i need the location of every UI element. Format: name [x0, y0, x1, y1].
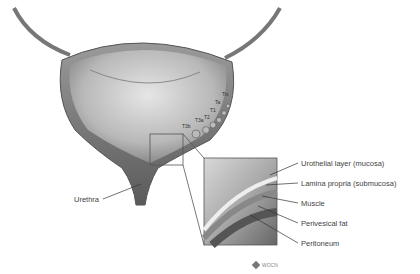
- bladder-illustration: [0, 0, 420, 274]
- label-peritoneum: Peritoneum: [301, 240, 339, 248]
- logo-text: WOCN: [262, 262, 278, 268]
- stage-t3b: T3b: [182, 124, 191, 129]
- label-lamina: Lamina propria (submucosa): [301, 180, 396, 188]
- logo-diamond-icon: [252, 261, 260, 269]
- stage-ta: Ta: [215, 100, 220, 105]
- logo: WOCN: [253, 262, 278, 268]
- label-urethra: Urethra: [74, 196, 99, 204]
- label-urothelial: Urothelial layer (mucosa): [301, 160, 384, 168]
- label-fat: Perivesical fat: [301, 220, 348, 228]
- stage-t2: T2: [204, 115, 210, 120]
- right-ureter: [225, 8, 280, 58]
- stage-t1: T1: [210, 108, 216, 113]
- label-muscle: Muscle: [301, 200, 325, 208]
- magnified-inset: [204, 158, 277, 245]
- stage-tis: Tis: [222, 92, 228, 97]
- stage-t3a: T3a: [195, 118, 204, 123]
- left-ureter: [14, 8, 70, 55]
